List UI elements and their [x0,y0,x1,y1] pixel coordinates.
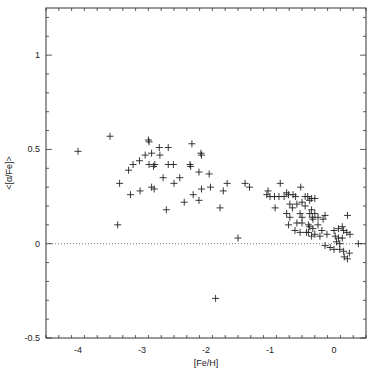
data-point-marker [316,233,323,240]
y-axis-ticks: -0.500.51 [24,17,366,343]
data-point-marker [331,227,338,234]
data-point-marker [176,174,183,181]
data-point-marker [127,191,134,198]
x-tick-label: -2 [202,345,210,355]
data-point-marker [285,221,292,228]
y-tick-label: 1 [35,50,40,60]
x-axis-label: [Fe/H] [194,358,219,368]
data-point-marker [323,231,330,238]
data-point-marker [224,180,231,187]
data-point-marker [315,214,322,221]
data-point-marker [265,187,272,194]
data-point-marker [165,144,172,151]
data-point-marker [170,161,177,168]
data-point-marker [277,180,284,187]
data-point-marker [242,180,249,187]
data-point-marker [344,212,351,219]
data-point-marker [283,210,290,217]
data-point-marker [130,161,137,168]
data-point-marker [114,221,121,228]
data-point-marker [340,227,347,234]
data-point-marker [297,229,304,236]
data-point-marker [148,150,155,157]
data-point-marker [187,161,194,168]
data-point-marker [347,231,354,238]
data-point-marker [151,161,158,168]
data-point-marker [306,197,313,204]
data-point-marker [217,204,224,211]
data-point-marker [336,246,343,253]
data-point-marker [291,227,298,234]
x-axis-ticks: -4-3-2-10 [46,8,366,355]
data-point-marker [142,152,149,159]
data-point-marker [220,187,227,194]
data-point-marker [293,201,300,208]
data-point-marker [311,195,318,202]
data-point-marker [171,180,178,187]
x-tick-label: -3 [138,345,146,355]
data-point-marker [309,216,316,223]
data-point-marker [286,214,293,221]
data-point-marker [302,203,309,210]
data-point-marker [125,167,132,174]
data-point-marker [145,137,152,144]
data-points [75,133,362,302]
data-point-marker [308,233,315,240]
data-point-marker [343,229,350,236]
data-point-marker [346,250,353,257]
data-point-marker [327,244,334,251]
data-point-marker [195,169,202,176]
data-point-marker [333,238,340,245]
data-point-marker [136,157,143,164]
data-point-marker [320,216,327,223]
data-point-marker [341,253,348,260]
x-tick-label: 0 [331,345,336,355]
data-point-marker [322,212,329,219]
data-point-marker [340,248,347,255]
data-point-marker [318,227,325,234]
data-point-marker [297,184,304,191]
data-point-marker [246,184,253,191]
data-point-marker [339,223,346,230]
data-point-marker [163,206,170,213]
data-point-marker [198,186,205,193]
y-tick-label: -0.5 [24,333,40,343]
scatter-plot: -4-3-2-10 -0.500.51 [Fe/H] <[α/Fe]> [0,0,375,378]
data-point-marker [150,163,157,170]
plot-frame [46,8,366,338]
data-point-marker [137,187,144,194]
data-point-marker [344,255,351,262]
data-point-marker [332,233,339,240]
y-tick-label: 0 [35,239,40,249]
data-point-marker [197,150,204,157]
data-point-marker [75,148,82,155]
data-point-marker [308,206,315,213]
data-point-marker [309,225,316,232]
data-point-marker [263,191,270,198]
data-point-marker [305,221,312,228]
data-point-marker [190,191,197,198]
data-point-marker [212,295,219,302]
data-point-marker [160,174,167,181]
data-point-marker [188,140,195,147]
data-point-marker [306,223,313,230]
data-point-marker [206,170,213,177]
data-point-marker [156,152,163,159]
data-point-marker [335,225,342,232]
data-point-marker [297,210,304,217]
data-point-marker [315,221,322,228]
data-point-marker [311,231,318,238]
x-tick-label: -1 [266,345,274,355]
data-point-marker [187,163,194,170]
y-tick-label: 0.5 [27,144,40,154]
data-point-marker [181,199,188,206]
data-point-marker [146,138,153,145]
data-point-marker [272,204,279,211]
data-point-marker [116,180,123,187]
data-point-marker [305,229,312,236]
y-axis-label: <[α/Fe]> [4,156,14,190]
data-point-marker [207,184,214,191]
data-point-marker [235,235,242,242]
x-tick-label: -4 [74,345,82,355]
data-point-marker [299,219,306,226]
